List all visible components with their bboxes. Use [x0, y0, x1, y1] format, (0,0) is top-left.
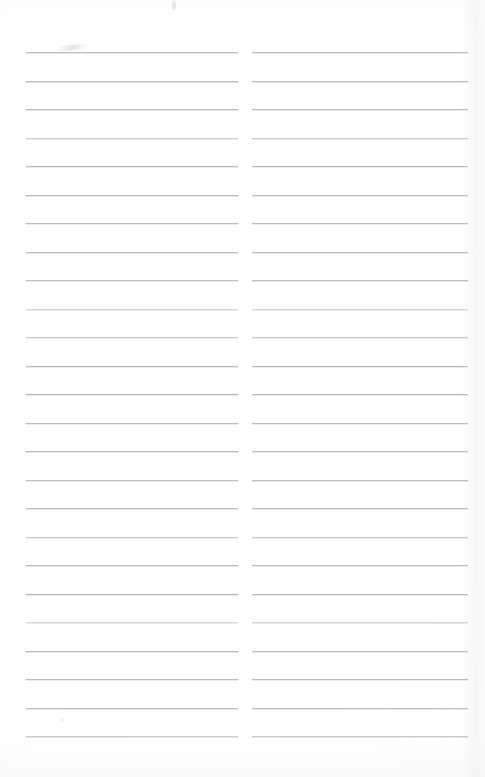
- rule-line: [252, 708, 468, 709]
- rule-line: [252, 594, 468, 595]
- writing-line-slot[interactable]: [26, 602, 238, 622]
- writing-line-slot[interactable]: [26, 688, 238, 708]
- rule-line: [252, 223, 468, 224]
- writing-line-slot[interactable]: [252, 61, 468, 81]
- writing-line-slot[interactable]: [26, 574, 238, 594]
- rule-line: [26, 138, 238, 139]
- writing-line-slot[interactable]: [26, 374, 238, 394]
- writing-line-slot[interactable]: [252, 89, 468, 109]
- writing-line-slot[interactable]: [252, 374, 468, 394]
- writing-line-slot[interactable]: [252, 289, 468, 309]
- rule-line: [252, 109, 468, 110]
- writing-line-slot[interactable]: [252, 460, 468, 480]
- rule-line: [26, 679, 238, 680]
- writing-line-slot[interactable]: [26, 659, 238, 679]
- rule-line: [252, 423, 468, 424]
- writing-line-slot[interactable]: [26, 146, 238, 166]
- rule-line: [26, 280, 238, 281]
- rule-line: [252, 166, 468, 167]
- rule-line: [26, 309, 238, 310]
- rule-line: [252, 138, 468, 139]
- rule-line: [26, 423, 238, 424]
- rule-line: [26, 223, 238, 224]
- writing-line-slot[interactable]: [252, 118, 468, 138]
- writing-line-slot[interactable]: [26, 716, 238, 736]
- rule-line: [26, 480, 238, 481]
- writing-line-slot[interactable]: [26, 545, 238, 565]
- rule-line: [26, 81, 238, 82]
- rule-line: [252, 337, 468, 338]
- rule-line: [26, 508, 238, 509]
- writing-line-slot[interactable]: [26, 61, 238, 81]
- writing-line-slot[interactable]: [252, 488, 468, 508]
- rule-line: [252, 451, 468, 452]
- rule-line: [252, 736, 468, 737]
- writing-line-slot[interactable]: [26, 260, 238, 280]
- rule-line: [26, 565, 238, 566]
- writing-line-slot[interactable]: [252, 631, 468, 651]
- rule-line: [252, 480, 468, 481]
- rule-line: [252, 651, 468, 652]
- rule-line: [26, 594, 238, 595]
- rule-line: [26, 52, 238, 53]
- rule-line: [252, 565, 468, 566]
- writing-line-slot[interactable]: [252, 545, 468, 565]
- rule-line: [252, 537, 468, 538]
- rule-line: [26, 736, 238, 737]
- rule-line: [26, 166, 238, 167]
- writing-line-slot[interactable]: [252, 688, 468, 708]
- writing-line-slot[interactable]: [26, 346, 238, 366]
- writing-line-slot[interactable]: [252, 146, 468, 166]
- writing-line-slot[interactable]: [252, 175, 468, 195]
- rule-line: [252, 679, 468, 680]
- rule-line: [252, 52, 468, 53]
- writing-line-slot[interactable]: [26, 488, 238, 508]
- writing-line-slot[interactable]: [26, 32, 238, 52]
- writing-line-slot[interactable]: [252, 232, 468, 252]
- writing-line-slot[interactable]: [252, 317, 468, 337]
- rule-line: [26, 195, 238, 196]
- writing-line-slot[interactable]: [26, 431, 238, 451]
- writing-line-slot[interactable]: [26, 203, 238, 223]
- rule-line: [252, 252, 468, 253]
- writing-line-slot[interactable]: [26, 89, 238, 109]
- writing-line-slot[interactable]: [26, 460, 238, 480]
- rule-line: [252, 309, 468, 310]
- rule-line: [252, 366, 468, 367]
- writing-line-slot[interactable]: [26, 403, 238, 423]
- rule-line: [26, 708, 238, 709]
- rule-line: [26, 252, 238, 253]
- rule-line: [26, 451, 238, 452]
- writing-line-slot[interactable]: [252, 403, 468, 423]
- writing-line-slot[interactable]: [252, 431, 468, 451]
- rule-line: [26, 337, 238, 338]
- writing-line-slot[interactable]: [252, 716, 468, 736]
- writing-line-slot[interactable]: [252, 260, 468, 280]
- rule-line: [26, 394, 238, 395]
- writing-line-slot[interactable]: [252, 602, 468, 622]
- writing-line-slot[interactable]: [252, 517, 468, 537]
- rule-line: [26, 651, 238, 652]
- writing-line-slot[interactable]: [252, 574, 468, 594]
- rule-line: [252, 195, 468, 196]
- rule-line: [252, 394, 468, 395]
- writing-line-slot[interactable]: [252, 659, 468, 679]
- scanned-page: [0, 0, 485, 777]
- rule-line: [26, 366, 238, 367]
- writing-line-slot[interactable]: [26, 175, 238, 195]
- writing-line-slot[interactable]: [26, 517, 238, 537]
- writing-line-slot[interactable]: [252, 346, 468, 366]
- rule-line: [252, 280, 468, 281]
- writing-line-slot[interactable]: [252, 203, 468, 223]
- writing-line-slot[interactable]: [26, 118, 238, 138]
- writing-line-slot[interactable]: [26, 631, 238, 651]
- rule-line: [252, 508, 468, 509]
- rule-line: [26, 622, 238, 623]
- rule-line: [26, 109, 238, 110]
- rule-line: [26, 537, 238, 538]
- writing-line-slot[interactable]: [26, 289, 238, 309]
- writing-line-slot[interactable]: [252, 32, 468, 52]
- writing-line-slot[interactable]: [26, 317, 238, 337]
- rule-line: [252, 81, 468, 82]
- writing-line-slot[interactable]: [26, 232, 238, 252]
